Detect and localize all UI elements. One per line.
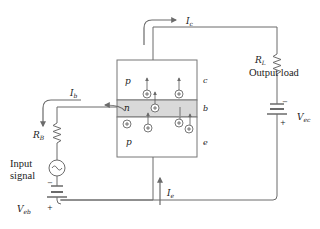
p-bottom-label: p: [126, 137, 132, 147]
base-wire: [57, 107, 117, 123]
p-top-label: p: [125, 76, 131, 86]
emitter-current-label: Ie: [166, 188, 175, 199]
collector-supply-label: Vec: [297, 112, 311, 123]
terminal-b-label: b: [203, 104, 208, 113]
base-current-label: Ib: [69, 88, 78, 99]
terminal-c-label: c: [203, 76, 208, 85]
n-label: n: [124, 103, 130, 113]
collector-current-arrow: [144, 20, 176, 45]
transistor-circuit-diagram: p n p c b e: [0, 0, 320, 229]
input-signal-label-line1: Input: [10, 158, 32, 169]
terminal-e-label: e: [203, 138, 208, 147]
veb-plus-sign: +: [47, 204, 53, 212]
veb-minus-sign: −: [47, 179, 53, 187]
base-resistor-icon: [53, 123, 61, 143]
vec-plus-sign: +: [280, 119, 286, 127]
base-resistor-label: RB: [32, 130, 45, 141]
base-supply-label: Veb: [17, 204, 31, 215]
output-load-label: Output load: [249, 67, 300, 78]
collector-current-label: Ic: [185, 16, 194, 27]
input-signal-label-line2: signal: [10, 170, 35, 181]
transistor: p n p c b e: [117, 60, 208, 157]
load-resistor-label: RL: [254, 55, 266, 66]
base-current-arrow: [43, 100, 81, 126]
vec-minus-sign: −: [282, 98, 288, 106]
hole-plus-circle-icon: [123, 120, 131, 128]
